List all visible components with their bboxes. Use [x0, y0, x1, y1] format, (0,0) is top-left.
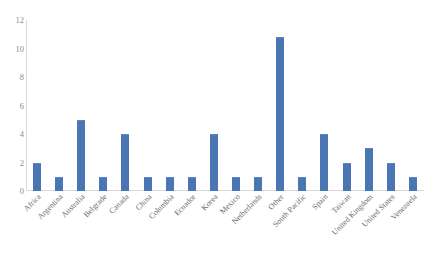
y-axis-tick-label: 4 — [2, 130, 24, 139]
x-axis-tick-label: Spain — [312, 193, 331, 212]
x-axis-label-slot: South Pacific — [291, 191, 313, 262]
x-axis-label-slot: Belgrade — [92, 191, 114, 262]
bar[interactable] — [343, 163, 351, 192]
bar[interactable] — [365, 148, 373, 191]
y-axis-tick-label: 12 — [2, 16, 24, 25]
bar[interactable] — [387, 163, 395, 192]
bar-slot — [291, 20, 313, 191]
bar-slot — [181, 20, 203, 191]
bar[interactable] — [144, 177, 152, 191]
bar-slot — [114, 20, 136, 191]
x-axis-label-slot: Argentina — [48, 191, 70, 262]
bar[interactable] — [55, 177, 63, 191]
bar[interactable] — [77, 120, 85, 191]
x-axis-label-slot: Ecuador — [181, 191, 203, 262]
bar-slot — [70, 20, 92, 191]
x-axis-label-slot: Netherlands — [247, 191, 269, 262]
bar-slot — [269, 20, 291, 191]
bar[interactable] — [121, 134, 129, 191]
bar[interactable] — [33, 163, 41, 192]
bar-slot — [225, 20, 247, 191]
y-axis: 024681012 — [0, 20, 24, 191]
x-axis-label-slot: Korea — [203, 191, 225, 262]
bar-chart: 024681012 AfricaArgentinaAustraliaBelgra… — [0, 0, 431, 262]
x-axis-label-slot: Australia — [70, 191, 92, 262]
x-axis-label-slot: Africa — [26, 191, 48, 262]
bar-slot — [137, 20, 159, 191]
x-axis-label-slot: Columbia — [159, 191, 181, 262]
bar[interactable] — [166, 177, 174, 191]
bar-slot — [380, 20, 402, 191]
bar[interactable] — [210, 134, 218, 191]
bar[interactable] — [409, 177, 417, 191]
plot-area — [26, 20, 424, 191]
y-axis-tick-label: 8 — [2, 73, 24, 82]
bar[interactable] — [276, 37, 284, 191]
bar-slot — [26, 20, 48, 191]
x-axis-label-slot: Other — [269, 191, 291, 262]
x-axis-label-slot: Venezuela — [402, 191, 424, 262]
bar-slot — [203, 20, 225, 191]
bar-slot — [247, 20, 269, 191]
bar-slot — [336, 20, 358, 191]
bar[interactable] — [232, 177, 240, 191]
x-axis-tick-label: Korea — [200, 193, 219, 212]
y-axis-tick-label: 2 — [2, 158, 24, 167]
bar[interactable] — [99, 177, 107, 191]
bar[interactable] — [254, 177, 262, 191]
bar[interactable] — [298, 177, 306, 191]
y-axis-tick-label: 6 — [2, 101, 24, 110]
x-axis-label-slot: China — [137, 191, 159, 262]
bar-slot — [402, 20, 424, 191]
bar[interactable] — [188, 177, 196, 191]
bar[interactable] — [320, 134, 328, 191]
y-axis-tick-label: 10 — [2, 44, 24, 53]
bar-slot — [313, 20, 335, 191]
x-axis-label-slot: Mexico — [225, 191, 247, 262]
bar-slot — [92, 20, 114, 191]
bar-slot — [358, 20, 380, 191]
bar-slot — [159, 20, 181, 191]
bar-slot — [48, 20, 70, 191]
y-axis-tick-label: 0 — [2, 187, 24, 196]
x-axis-label-slot: United States — [380, 191, 402, 262]
x-axis-label-slot: Canada — [114, 191, 136, 262]
x-axis-labels: AfricaArgentinaAustraliaBelgradeCanadaCh… — [26, 191, 424, 262]
